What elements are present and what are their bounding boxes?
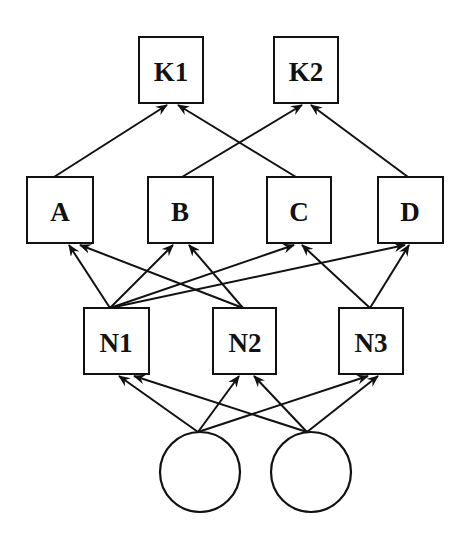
node-k1: K1: [139, 37, 203, 103]
node-c: C: [267, 177, 331, 243]
node-b: B: [148, 177, 213, 243]
input-node-2: [271, 432, 351, 512]
edge-d-k2: [311, 105, 408, 177]
node-n2-label: N2: [229, 328, 262, 358]
node-n2: N2: [213, 308, 276, 374]
node-b-label: B: [171, 197, 189, 227]
edge-n3-d: [370, 245, 409, 308]
node-n1: N1: [84, 308, 149, 374]
edge-n1-c: [110, 245, 294, 308]
node-d-label: D: [400, 197, 420, 227]
node-k1-label: K1: [154, 57, 189, 87]
network-diagram: K1 K2 A B C D N1 N2 N3: [0, 0, 466, 539]
edge-b-k2: [182, 105, 302, 177]
edges-to-output: [54, 105, 408, 177]
node-n1-label: N1: [100, 328, 133, 358]
node-a: A: [27, 177, 93, 243]
node-n3-label: N3: [355, 328, 388, 358]
node-a-label: A: [50, 197, 70, 227]
input-node-1: [160, 432, 240, 512]
edges-to-hidden: [69, 245, 409, 308]
edge-a-k1: [54, 105, 167, 177]
node-k2: K2: [274, 37, 338, 103]
edges-from-inputs: [119, 376, 378, 432]
edge-c-k1: [178, 105, 296, 177]
node-c-label: C: [289, 197, 309, 227]
node-d: D: [378, 177, 443, 243]
node-n3: N3: [339, 308, 403, 374]
node-k2-label: K2: [289, 57, 324, 87]
